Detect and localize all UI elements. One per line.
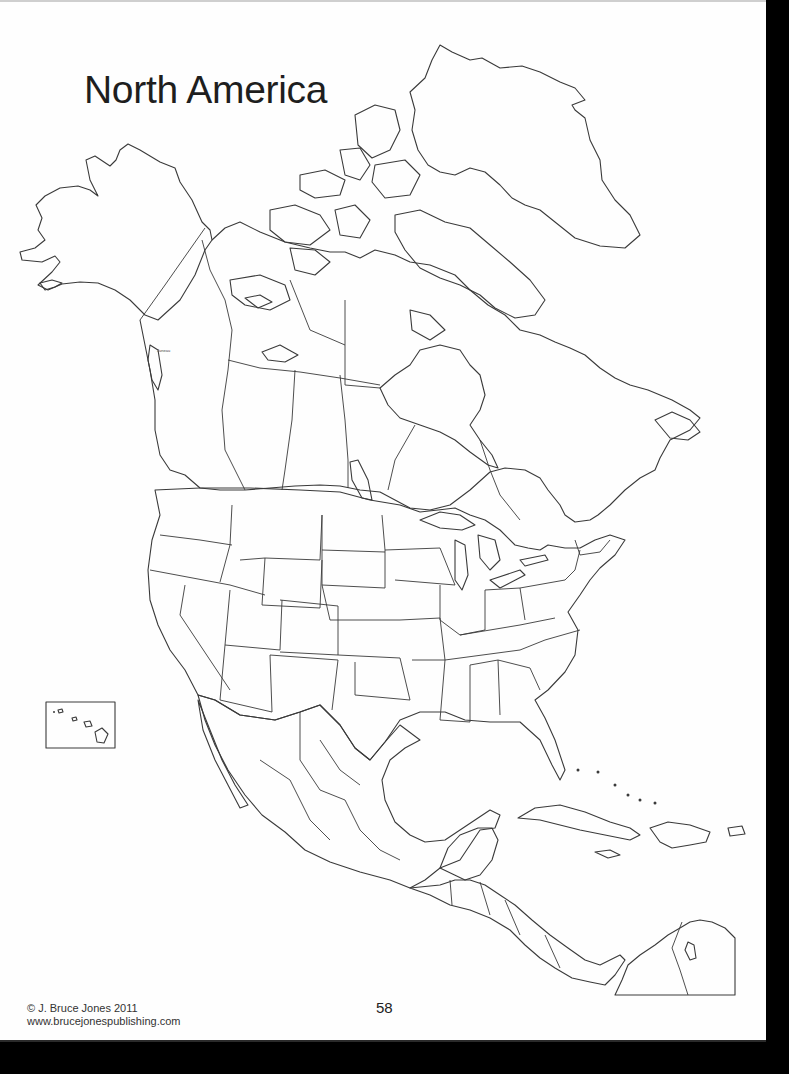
puerto-rico-outline	[728, 826, 745, 836]
us-border-ne-ks	[322, 585, 400, 620]
us-border-or-ca	[150, 570, 265, 595]
us-border-pa-ny	[520, 550, 580, 588]
ca-border-3	[505, 900, 520, 935]
arctic-island-1	[270, 205, 330, 245]
colombia-venezuela-border	[672, 922, 688, 995]
baja-california	[198, 700, 248, 808]
ca-border-1	[450, 880, 452, 905]
ontario-quebec-border	[480, 440, 520, 520]
nunavut-vertical-border	[345, 300, 380, 388]
arctic-island-7	[290, 248, 330, 275]
us-border-nm-tx	[270, 655, 338, 710]
nwt-nunavut-border	[290, 280, 345, 345]
bahamas-island-4	[627, 794, 630, 797]
us-border-ga-sc	[498, 660, 540, 690]
us-border-wa-or	[160, 535, 232, 545]
mexico-state-border-3	[260, 760, 330, 840]
lake-erie	[490, 570, 525, 588]
saskatchewan-manitoba-border	[340, 375, 348, 488]
arctic-island-6	[335, 205, 370, 238]
us-border-mo-ar	[400, 618, 445, 660]
lake-winnipeg	[350, 460, 372, 500]
manitoba-ontario-border	[388, 425, 415, 490]
greenland-outline	[410, 45, 640, 248]
jamaica-outline	[595, 850, 620, 858]
us-border-al-ga	[470, 660, 500, 715]
aleutian-islands	[40, 280, 62, 290]
page-number: 58	[376, 999, 393, 1016]
bc-alberta-border	[222, 330, 245, 490]
copyright-text: © J. Bruce Jones 2011	[27, 1002, 180, 1015]
central-america-outline	[410, 880, 625, 985]
bahamas-island-5	[639, 799, 642, 802]
bahamas-island-3	[614, 784, 617, 787]
yucatan-outline	[440, 828, 498, 880]
arctic-island-5	[372, 160, 420, 198]
us-border-utah-az	[225, 590, 282, 650]
footer-credits: © J. Bruce Jones 2011 www.brucejonespubl…	[27, 1002, 180, 1028]
arctic-island-2	[300, 170, 345, 198]
prairies-north-border	[228, 360, 380, 385]
lake-ontario	[520, 555, 548, 566]
us-border-ky-tn	[460, 618, 555, 635]
us-border-nd-sd	[322, 550, 385, 552]
arctic-island-4	[340, 148, 370, 180]
us-border-four-corners	[220, 645, 272, 712]
alberta-saskatchewan-border	[282, 370, 295, 490]
baffin-island-outline	[395, 210, 545, 318]
alaska-outline	[20, 144, 212, 320]
hispaniola-outline	[650, 822, 710, 848]
us-border-colorado	[280, 600, 338, 655]
hawaii-island-4	[84, 721, 92, 727]
lake-huron	[478, 535, 500, 570]
bahamas-island-1	[577, 769, 580, 772]
lake-maracaibo	[685, 942, 696, 960]
mexico-state-border-1	[300, 712, 345, 800]
hawaii-big-island	[95, 728, 108, 743]
us-border-il-in-oh	[440, 585, 525, 635]
us-border-wyoming	[262, 558, 322, 608]
us-border-tx-ok	[355, 662, 410, 700]
us-border-montana-south	[240, 515, 322, 560]
cuba-outline	[518, 805, 640, 840]
usa-contiguous-outline	[148, 488, 625, 780]
canada-mainland-outline	[140, 222, 700, 522]
north-america-outline-map	[0, 0, 766, 1040]
mexico-state-border-4	[345, 800, 400, 860]
juneau-label: Juneau	[157, 348, 170, 353]
us-border-ok	[338, 655, 410, 700]
hawaii-island-1	[53, 711, 55, 713]
hawaii-island-3	[72, 717, 77, 721]
lake-superior	[420, 512, 475, 530]
mexico-outline	[198, 695, 500, 888]
victoria-island-outline	[230, 275, 290, 310]
hudson-bay-outline	[380, 345, 498, 468]
bahamas-island-2	[597, 771, 600, 774]
us-border-mn-ia	[385, 548, 455, 585]
hawaii-island-2	[58, 709, 63, 713]
arctic-island-8	[410, 310, 445, 340]
great-bear-lake	[262, 345, 298, 362]
yukon-nwt-border	[202, 240, 232, 330]
bahamas-island-6	[654, 802, 657, 805]
document-page: North America	[0, 0, 766, 1042]
us-border-ms-al	[440, 660, 470, 722]
website-text: www.brucejonespublishing.com	[27, 1015, 180, 1028]
lake-michigan	[455, 540, 468, 590]
